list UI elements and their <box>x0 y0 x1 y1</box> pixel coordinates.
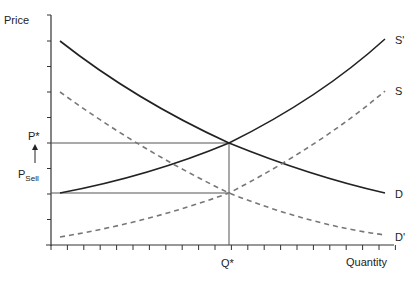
supply-demand-chart: Price Quantity P* PSell Q* S' S D D' <box>0 0 418 288</box>
supply-curve-s-prime <box>60 39 385 193</box>
demand-curve-d-prime <box>60 92 385 235</box>
q-star-label: Q* <box>221 257 235 269</box>
curve-label-d-prime: D' <box>395 231 405 243</box>
arrow-head-icon <box>32 144 38 150</box>
x-axis-ticks <box>51 245 395 250</box>
curve-label-s: S <box>395 85 402 97</box>
p-star-label: P* <box>28 130 40 142</box>
x-axis-label: Quantity <box>346 256 387 268</box>
curve-label-s-prime: S' <box>395 34 404 46</box>
y-axis-label: Price <box>4 14 29 26</box>
supply-curve-s <box>60 91 385 237</box>
curve-label-d: D <box>395 188 403 200</box>
demand-curve-d <box>60 41 385 193</box>
p-sell-label: PSell <box>18 168 39 183</box>
